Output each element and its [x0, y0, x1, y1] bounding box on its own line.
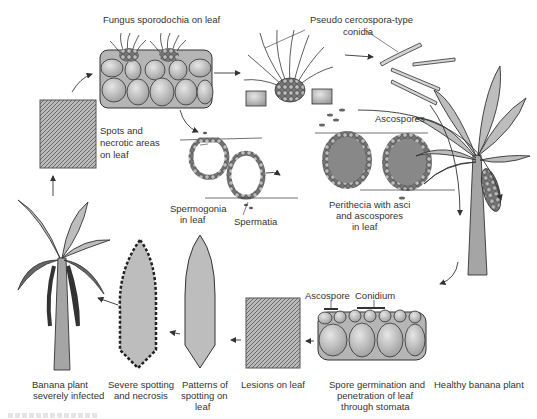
label-perithecia-line2: and ascospores — [336, 210, 403, 221]
severe-necrosis-leaf-illustration — [120, 240, 156, 368]
figure-caption-cropped — [8, 413, 98, 418]
label-patterns-line3: leaf — [195, 401, 210, 412]
label-spermogonia-line1: Spermogonia — [170, 203, 227, 214]
label-spots-line1: Spots and — [100, 125, 143, 136]
spotting-pattern-leaf-illustration — [185, 235, 215, 368]
healthy-banana-plant-illustration — [416, 66, 530, 275]
label-patterns-line1: Patterns of — [182, 379, 228, 390]
label-spots-line2: necrotic areas — [100, 137, 160, 148]
spots-leaf-illustration — [40, 100, 96, 168]
label-spermogonia-line2: in leaf — [180, 214, 205, 225]
label-healthy: Healthy banana plant — [434, 379, 524, 390]
label-lesions: Lesions on leaf — [241, 379, 305, 390]
label-spots-line3: on leaf — [100, 149, 129, 160]
label-spermatia: Spermatia — [234, 216, 277, 227]
label-perithecia-line1: Perithecia with asci — [329, 199, 410, 210]
label-conidia-line2: conidia — [343, 26, 373, 37]
infected-banana-plant-illustration — [18, 200, 110, 370]
label-infected-line1: Banana plant — [32, 379, 88, 390]
label-sporodochia: Fungus sporodochia on leaf — [103, 14, 220, 25]
label-ascospores: Ascospores — [375, 113, 425, 124]
label-patterns-line2: spotting on — [181, 390, 227, 401]
label-germination-line1: Spore germination and — [329, 379, 425, 390]
label-infected-line2: severely infected — [33, 390, 104, 401]
conidia-illustration — [380, 43, 455, 105]
label-ascospore: Ascospore — [305, 290, 350, 301]
spore-germination-section-illustration — [318, 300, 426, 360]
label-germination-line2: penetration of leaf — [337, 390, 413, 401]
label-conidium: Conidium — [355, 290, 395, 301]
sporodochia-leaf-section-illustration — [100, 33, 213, 108]
lesions-leaf-illustration — [246, 298, 300, 368]
label-conidia-line1: Pseudo cercospora-type — [310, 14, 413, 25]
conidiophore-tuft-illustration — [244, 30, 333, 106]
label-germination-line3: through stomata — [341, 401, 410, 412]
label-severe-line1: Severe spotting — [108, 379, 174, 390]
spermogonia-illustration — [180, 132, 298, 210]
label-severe-line2: and necrosis — [114, 390, 168, 401]
label-perithecia-line3: in leaf — [352, 221, 377, 232]
disease-cycle-diagram — [0, 0, 537, 419]
